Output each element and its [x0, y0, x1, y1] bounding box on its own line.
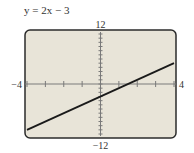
- y-max-label: 12: [96, 19, 106, 30]
- x-min-label: −4: [11, 79, 22, 90]
- x-max-label: 4: [179, 79, 184, 90]
- graph: 12 −12 −4 4: [0, 0, 194, 153]
- y-min-label: −12: [93, 140, 109, 151]
